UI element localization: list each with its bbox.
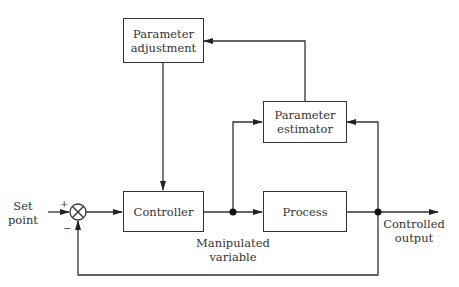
process-block: Process: [263, 191, 347, 232]
branch-point-output: [375, 209, 382, 216]
branch-point-manipulated: [230, 209, 237, 216]
set-point-label: Set point: [4, 199, 42, 227]
parameter-adjustment-label: Parameter adjustment: [131, 27, 196, 55]
process-label: Process: [282, 205, 327, 219]
controlled-output-label: Controlled output: [383, 217, 445, 245]
parameter-adjustment-block: Parameter adjustment: [123, 18, 204, 63]
minus-sign: −: [63, 222, 71, 236]
controller-label: Controller: [134, 205, 194, 219]
controller-block: Controller: [123, 191, 204, 232]
manipulated-variable-label: Manipulated variable: [196, 236, 270, 264]
parameter-estimator-label: Parameter estimator: [274, 108, 335, 136]
plus-sign: +: [60, 197, 68, 211]
parameter-estimator-block: Parameter estimator: [263, 101, 347, 143]
